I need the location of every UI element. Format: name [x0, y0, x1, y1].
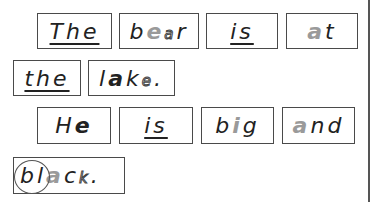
letter-c: c — [64, 163, 79, 188]
word-box-big: big — [201, 107, 274, 144]
word-the-lower: the — [24, 66, 69, 91]
letter-l: l — [99, 66, 108, 91]
letter-b: b — [215, 113, 232, 138]
letter-r: r — [177, 19, 189, 44]
letter-k-dotted: k — [79, 169, 91, 187]
period: . — [154, 66, 164, 91]
letter-b: b — [129, 19, 146, 44]
letter-k-dotted-wrap: k — [79, 163, 91, 188]
word-box-and: and — [282, 107, 355, 144]
letter-k: k — [126, 66, 142, 91]
letter-a-highlighted: a — [46, 163, 64, 188]
letter-e-highlighted: e — [146, 19, 164, 44]
letter-e-bold: e — [75, 113, 93, 138]
letter-i-highlighted: i — [232, 113, 243, 138]
letter-a-bold: a — [108, 66, 126, 91]
period: . — [91, 163, 101, 188]
letter-d: d — [327, 113, 344, 138]
letter-n: n — [310, 113, 327, 138]
word-box-he: He — [37, 107, 111, 144]
word-box-is: is — [206, 13, 278, 49]
letter-a-dotted-wrap: a — [164, 19, 176, 44]
word-box-at: at — [286, 13, 358, 49]
word-box-is-lower: is — [119, 107, 193, 144]
word-is-lower: is — [144, 113, 168, 138]
word-box-black: black. — [13, 157, 125, 194]
letter-a-highlighted: a — [307, 19, 325, 44]
word-box-the: The — [37, 13, 112, 49]
letter-t: t — [325, 19, 337, 44]
letter-l: l — [37, 163, 46, 188]
letter-H: H — [55, 113, 75, 138]
page-margin-line — [368, 0, 370, 202]
letter-e-dotted-wrap: e — [142, 66, 154, 91]
word-the: The — [50, 19, 100, 44]
letter-a-dotted: a — [164, 25, 176, 43]
letter-b: b — [20, 163, 37, 188]
letter-g: g — [243, 113, 260, 138]
letter-e-dotted: e — [142, 72, 154, 90]
word-is: is — [230, 19, 254, 44]
word-box-lake: lake. — [88, 60, 175, 96]
word-box-the-lower: the — [13, 60, 81, 96]
letter-a-highlighted: a — [293, 113, 311, 138]
word-box-bear: bear — [119, 13, 199, 49]
